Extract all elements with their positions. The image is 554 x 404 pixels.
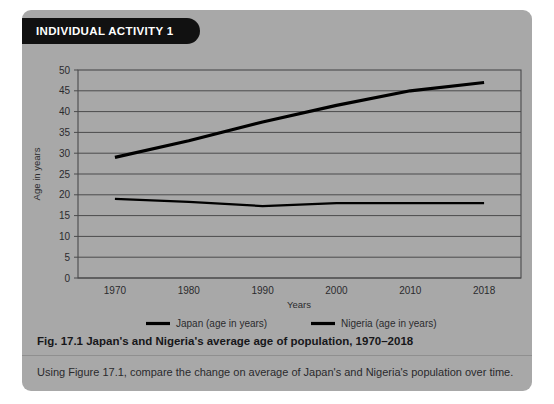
y-tick-label: 5 [64, 252, 70, 263]
y-axis-tick-labels: 05101520253035404550 [59, 65, 71, 284]
y-tick-label: 25 [59, 169, 71, 180]
series-line [115, 199, 484, 206]
y-tick-label: 30 [59, 148, 71, 159]
y-tick-label: 50 [59, 65, 71, 76]
y-tick-label: 0 [64, 273, 70, 284]
x-axis-title: Years [287, 299, 311, 310]
activity-panel: INDIVIDUAL ACTIVITY 1 051015202530354045… [22, 10, 532, 391]
x-tick-label: 1990 [251, 285, 274, 296]
y-tick-label: 35 [59, 127, 71, 138]
activity-banner-label: INDIVIDUAL ACTIVITY 1 [36, 25, 174, 37]
x-tick-label: 2018 [473, 285, 496, 296]
figure-chart-area: 05101520253035404550 1970198019902000201… [22, 44, 532, 340]
y-tick-label: 40 [59, 106, 71, 117]
y-tick-label: 15 [59, 210, 71, 221]
x-tick-label: 2010 [399, 285, 422, 296]
y-tick-label: 20 [59, 189, 71, 200]
y-tick-label: 10 [59, 231, 71, 242]
line-chart: 05101520253035404550 1970198019902000201… [22, 44, 532, 340]
x-axis-tick-labels: 197019801990200020102018 [104, 285, 496, 296]
legend-label: Nigeria (age in years) [341, 318, 437, 329]
y-axis-title: Age in years [31, 147, 42, 200]
activity-banner: INDIVIDUAL ACTIVITY 1 [22, 18, 200, 44]
legend-label: Japan (age in years) [176, 318, 267, 329]
x-tick-label: 2000 [325, 285, 348, 296]
x-tick-label: 1980 [178, 285, 201, 296]
activity-question-text: Using Figure 17.1, compare the change on… [37, 365, 523, 380]
figure-caption: Fig. 17.1 Japan's and Nigeria's average … [37, 334, 523, 349]
x-tick-label: 1970 [104, 285, 127, 296]
chart-legend: Japan (age in years)Nigeria (age in year… [146, 318, 437, 329]
y-tick-label: 45 [59, 85, 71, 96]
caption-divider [22, 355, 532, 356]
data-series-group [115, 82, 484, 206]
y-gridlines [74, 70, 521, 278]
series-line [115, 82, 484, 157]
